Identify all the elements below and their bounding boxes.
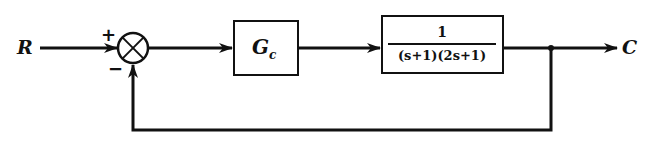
controller-label: Gc xyxy=(252,35,276,62)
tf-numerator: 1 xyxy=(437,24,447,40)
controller-label-main: G xyxy=(252,35,269,59)
minus-sign: − xyxy=(108,58,123,79)
controller-label-subscript: c xyxy=(269,48,276,62)
tf-denominator: (s+1)(2s+1) xyxy=(398,48,486,64)
output-label-c: C xyxy=(622,36,637,58)
block-diagram-canvas xyxy=(0,0,652,144)
tf-fraction-bar xyxy=(388,43,496,45)
plus-sign: + xyxy=(101,24,116,45)
input-label-r: R xyxy=(17,36,33,58)
plant-transfer-function: 1 (s+1)(2s+1) xyxy=(381,15,503,73)
